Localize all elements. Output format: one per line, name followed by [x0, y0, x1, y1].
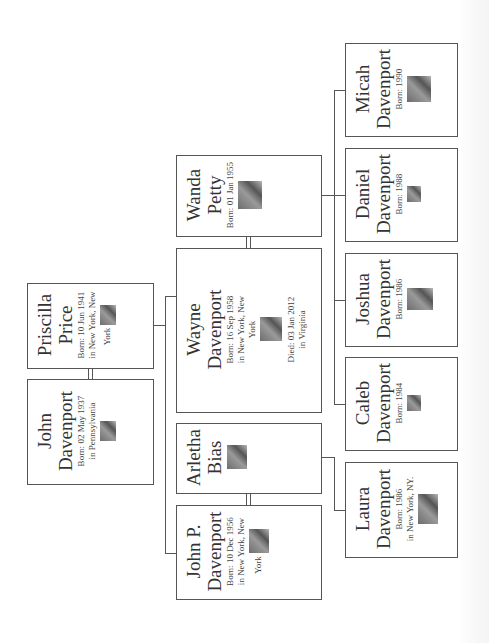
birth-place: in Pennsylvania [87, 402, 98, 459]
person-card-priscilla-price[interactable]: Priscilla Price Born: 10 Jun 1941 in New… [27, 283, 154, 369]
first-name: Laura [352, 487, 373, 531]
first-name: Daniel [352, 169, 373, 220]
portrait-photo [238, 181, 262, 209]
portrait-photo [407, 395, 421, 411]
person-card-wanda-petty[interactable]: Wanda Petty Born: 01 Jan 1955 [176, 155, 322, 237]
birth-date: Born: 10 Dec 1956 [225, 517, 236, 586]
parent-child-connector [334, 300, 345, 301]
first-name: John [34, 413, 55, 449]
portrait-photo [249, 529, 269, 553]
first-name: Wayne [183, 303, 204, 355]
birth-date: Born: 1986 [394, 279, 405, 320]
person-card-laura-davenport[interactable]: Laura Davenport Born: 1986 in New York, … [345, 462, 458, 558]
last-name: Davenport [55, 391, 76, 471]
death-date: Died: 03 Jan 2012 [286, 297, 297, 363]
parent-child-connector [165, 296, 166, 554]
last-name: Davenport [204, 289, 225, 369]
parent-child-connector [154, 325, 165, 326]
birth-date: Born: 01 Jan 1955 [225, 162, 236, 228]
birth-place-cont: York [253, 556, 264, 574]
last-name: Davenport [373, 363, 394, 443]
last-name: Davenport [373, 154, 394, 234]
portrait-photo [100, 421, 116, 441]
portrait-photo [260, 318, 282, 342]
parent-child-connector [334, 404, 345, 405]
portrait-photo [100, 305, 116, 325]
parent-child-connector [322, 195, 334, 196]
person-card-joshua-davenport[interactable]: Joshua Davenport Born: 1986 [345, 253, 458, 347]
portrait-photo [227, 446, 247, 470]
birth-date: Born: 1988 [394, 174, 405, 215]
first-name: Priscilla [34, 294, 55, 356]
parent-child-connector [334, 457, 335, 511]
person-card-wayne-davenport[interactable]: Wayne Davenport Born: 16 Sep 1958 in New… [176, 248, 322, 413]
last-name: Davenport [204, 511, 225, 591]
last-name: Davenport [373, 49, 394, 129]
birth-place-cont: York [247, 321, 258, 339]
first-name: Arletha [183, 429, 204, 486]
first-name: Micah [352, 65, 373, 114]
parent-child-connector [322, 457, 334, 458]
last-name: Petty [204, 175, 225, 214]
birth-date: Born: 02 May 1937 [76, 396, 87, 467]
first-name: Caleb [352, 381, 373, 425]
birth-date: Born: 16 Sep 1958 [225, 296, 236, 364]
birth-date: Born: 1984 [394, 383, 405, 424]
last-name: Bias [204, 441, 225, 475]
last-name: Davenport [373, 469, 394, 549]
birth-place: in New York, New [87, 291, 98, 358]
birth-place: in New York, New [236, 296, 247, 363]
portrait-photo [418, 494, 438, 524]
birth-date: Born: 1986 [394, 489, 405, 530]
last-name: Price [55, 305, 76, 344]
person-card-micah-davenport[interactable]: Micah Davenport Born: 1990 [345, 43, 458, 137]
portrait-photo [407, 288, 433, 310]
parent-child-connector [334, 195, 345, 196]
first-name: Wanda [183, 169, 204, 221]
parent-child-connector [165, 553, 176, 554]
person-card-daniel-davenport[interactable]: Daniel Davenport Born: 1988 [345, 148, 458, 242]
parent-child-connector [334, 90, 335, 405]
portrait-photo [407, 186, 421, 202]
death-place: in Virginia [297, 310, 308, 348]
person-card-john-p-davenport[interactable]: John P. Davenport Born: 10 Dec 1956 in N… [176, 505, 322, 600]
parent-child-connector [165, 296, 176, 297]
person-card-john-davenport[interactable]: John Davenport Born: 02 May 1937 in Penn… [27, 379, 154, 485]
person-card-caleb-davenport[interactable]: Caleb Davenport Born: 1984 [345, 357, 458, 451]
person-card-arletha-bias[interactable]: Arletha Bias [176, 423, 322, 494]
birth-date: Born: 10 Jun 1941 [76, 292, 87, 359]
first-name: Joshua [352, 273, 373, 325]
birth-place: in New York, New [236, 518, 247, 585]
birth-date: Born: 1990 [394, 69, 405, 110]
page-edge-strip [461, 0, 489, 643]
birth-place-cont: York [102, 328, 113, 346]
first-name: John P. [183, 525, 204, 579]
portrait-photo [407, 76, 431, 102]
last-name: Davenport [373, 259, 394, 339]
birth-place: in New York, NY. [405, 477, 416, 541]
parent-child-connector [334, 90, 345, 91]
parent-child-connector [334, 510, 345, 511]
